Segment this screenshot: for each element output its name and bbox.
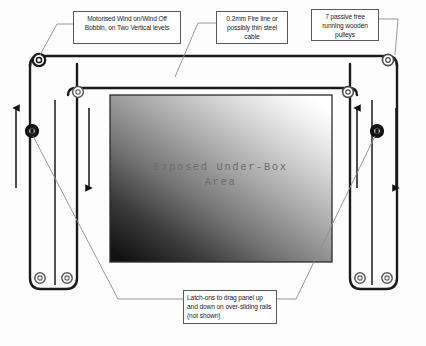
pulley-inner-top-right (343, 87, 354, 98)
left-bobbin (26, 125, 39, 138)
leader-fireline (175, 23, 216, 77)
pulley-outer-top-left (33, 54, 45, 66)
callout-latch-ons: Latch-ons to drag panel up and down on o… (183, 290, 277, 324)
pulley-foot-left-inner (35, 273, 45, 283)
exposed-under-box-area (110, 95, 332, 262)
leader-pulleys (379, 19, 398, 55)
pulley-foot-right-outer (382, 273, 392, 283)
pulley-outer-top-right (382, 54, 393, 65)
callout-wooden-pulleys: 7 passive free running wooden pulleys (311, 9, 379, 41)
callout-fire-line: 0.2mm Fire line or possibly thin steel c… (216, 11, 288, 44)
pulley-foot-right-inner (355, 273, 365, 283)
pulley-inner-top-left (73, 87, 84, 98)
right-bobbin (371, 125, 384, 138)
pulley-foot-left-outer (62, 273, 72, 283)
leader-bobbin (40, 24, 73, 55)
diagram-canvas: Exposed Under-Box Area Motorised Wind on… (0, 0, 426, 346)
callout-motorised-bobbin: Motorised Wind on/Wind Off Bobbin, on Tw… (73, 11, 181, 44)
